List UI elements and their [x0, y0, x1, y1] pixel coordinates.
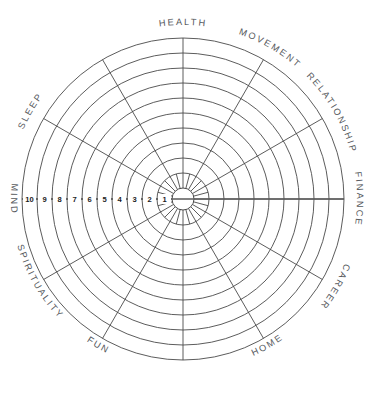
sector-label-relationship: RELATIONSHIP: [305, 70, 359, 154]
spoke-divider-11: [103, 60, 178, 190]
sector-label-text: FUN: [85, 335, 111, 356]
spoke-divider-10: [44, 119, 174, 194]
spoke-divider-1: [189, 60, 264, 190]
wheel-of-life-diagram: 10987654321 HEALTHMOVEMENTRELATIONSHIPFI…: [0, 0, 384, 402]
scale-number-9: 9: [42, 195, 46, 204]
sector-label-text: FINANCE: [353, 171, 365, 227]
sector-label-fun: FUN: [85, 335, 111, 356]
sector-label-career: CAREER: [318, 263, 352, 312]
scale-number-7: 7: [72, 195, 76, 204]
scale-number-6: 6: [87, 195, 91, 204]
scale-number-2: 2: [147, 195, 151, 204]
scale-number-3: 3: [132, 195, 136, 204]
spoke-divider-7: [103, 209, 178, 339]
sector-label-text: MIND: [9, 183, 20, 215]
sector-label-health: HEALTH: [158, 17, 207, 29]
sector-label-text: RELATIONSHIP: [305, 70, 359, 154]
sector-label-finance: FINANCE: [353, 171, 365, 227]
sector-label-text: HEALTH: [158, 17, 207, 29]
scale-number-8: 8: [57, 195, 61, 204]
scale-number-10: 10: [25, 195, 33, 204]
sector-label-spirituality: SPIRITUALITY: [15, 243, 65, 320]
sector-label-text: CAREER: [318, 263, 352, 312]
wheel-svg: 10987654321 HEALTHMOVEMENTRELATIONSHIPFI…: [0, 0, 384, 402]
sector-label-text: SPIRITUALITY: [15, 243, 65, 320]
sector-label-mind: MIND: [9, 183, 20, 215]
spoke-divider-2: [193, 119, 323, 194]
spoke-divider-8: [44, 205, 174, 280]
spoke-divider-4: [193, 205, 323, 280]
spoke-divider-5: [189, 209, 264, 339]
